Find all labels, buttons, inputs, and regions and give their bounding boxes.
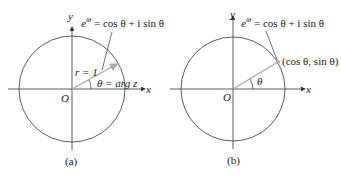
caption-b: (b)	[227, 154, 240, 167]
x-axis-label: x	[305, 83, 311, 95]
formula: eiθ = cos θ + i sin θ	[241, 16, 324, 29]
angle-arc	[89, 80, 91, 89]
point-marker	[276, 60, 280, 64]
caption-a: (a)	[65, 155, 78, 168]
angle-arc	[250, 79, 253, 89]
origin-label: O	[61, 92, 69, 104]
radius-line	[233, 62, 278, 89]
panel-a: y x O eiθ = cos θ + i sin θ r = 1 θ = ar…	[8, 10, 164, 168]
y-axis-label: y	[229, 8, 235, 20]
origin-label: O	[223, 91, 231, 103]
euler-unit-circle-figure: y x O eiθ = cos θ + i sin θ r = 1 θ = ar…	[0, 0, 341, 179]
formula-leader	[102, 32, 112, 70]
angle-label: θ = arg z	[97, 77, 138, 89]
y-axis-label: y	[67, 10, 73, 22]
angle-label: θ	[257, 75, 263, 87]
x-axis-label: x	[145, 83, 151, 95]
point-label: (cos θ, sin θ)	[282, 55, 339, 68]
panel-b: y x O eiθ = cos θ + i sin θ (cos θ, sin …	[170, 8, 339, 167]
formula: eiθ = cos θ + i sin θ	[81, 16, 164, 29]
radius-label: r = 1	[75, 66, 98, 78]
formula-leader	[266, 31, 277, 60]
